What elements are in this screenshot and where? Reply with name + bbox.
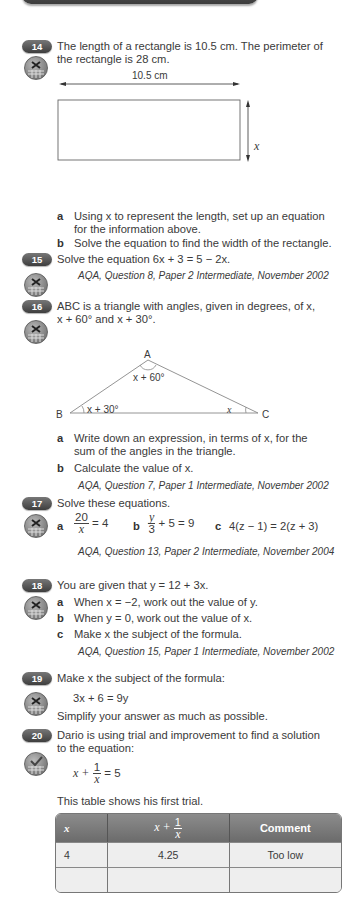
- q18-part-c: Make x the subject of the formula.: [74, 628, 242, 641]
- part-label: b: [57, 612, 70, 625]
- part-label: a: [57, 210, 70, 223]
- calculator-not-allowed-icon: [24, 692, 48, 716]
- fraction-denominator: 3: [148, 524, 155, 535]
- q16-text-line1: ABC is a triangle with angles, given in …: [57, 300, 315, 313]
- q18-part-a: When x = −2, work out the value of y.: [74, 596, 258, 609]
- table-cell-x[interactable]: [56, 867, 108, 892]
- q16-source: AQA, Question 7, Paper 1 Intermediate, N…: [78, 480, 329, 491]
- calculator-not-allowed-icon: [24, 320, 48, 344]
- column-header-comment: Comment: [230, 814, 341, 842]
- table-row: 4 4.25 Too low: [56, 842, 341, 867]
- angle-a-label: x + 60°: [133, 371, 165, 384]
- table-cell-comment[interactable]: [230, 867, 341, 892]
- q18-source: AQA, Question 15, Paper 1 Intermediate, …: [78, 646, 334, 657]
- angle-b-label: x + 30°: [87, 403, 119, 416]
- q14-part-b: Solve the equation to find the width of …: [74, 237, 332, 250]
- q17-text: Solve these equations.: [57, 497, 170, 510]
- equation-rest: = 4: [92, 517, 108, 529]
- q16-part-a-line1: Write down an expression, in terms of x,…: [74, 432, 308, 445]
- q17-part-c-equation: 4(z − 1) = 2(z + 3): [229, 520, 318, 533]
- question-number-18: 18: [22, 579, 52, 592]
- q16-part-b: Calculate the value of x.: [74, 462, 193, 475]
- fraction-denominator: x: [93, 774, 101, 785]
- equation-rest: + 5 = 9: [159, 517, 195, 529]
- part-label: a: [57, 432, 70, 445]
- equation-right: = 5: [104, 767, 120, 779]
- trial-table: x x + 1x Comment 4 4.25 Too low: [55, 813, 342, 893]
- q18-text: You are given that y = 12 + 3x.: [57, 579, 208, 592]
- column-header-x: x: [56, 814, 108, 842]
- part-label: b: [133, 520, 146, 533]
- table-cell-x: 4: [56, 842, 108, 867]
- question-number-14: 14: [22, 40, 52, 53]
- part-label: a: [57, 596, 70, 609]
- q16-text-line2: x + 60° and x + 30°.: [57, 313, 156, 326]
- rectangle-diagram: [55, 80, 255, 170]
- page-header-bar: [22, 0, 258, 4]
- q20-equation: x + 1x = 5: [73, 762, 121, 785]
- q14-part-a-line2: for the information above.: [74, 223, 201, 236]
- table-row: [56, 867, 341, 892]
- q18-part-b: When y = 0, work out the value of x.: [74, 612, 252, 625]
- question-number-15: 15: [22, 253, 52, 266]
- table-header-row: x x + 1x Comment: [56, 814, 341, 842]
- q14-part-a-line1: Using x to represent the length, set up …: [74, 210, 325, 223]
- q19-formula: 3x + 6 = 9y: [73, 692, 128, 705]
- q19-text: Make x the subject of the formula:: [57, 672, 225, 685]
- rectangle-height-label: x: [254, 140, 259, 153]
- q16-part-a-line2: sum of the angles in the triangle.: [74, 445, 236, 458]
- vertex-c-label: C: [262, 408, 269, 421]
- q20-text-line1: Dario is using trial and improvement to …: [57, 729, 320, 742]
- part-label: c: [215, 520, 228, 533]
- question-number-16: 16: [22, 300, 52, 313]
- angle-c-label: x: [227, 403, 231, 416]
- calculator-not-allowed-icon: [24, 514, 48, 538]
- question-number-19: 19: [22, 672, 52, 685]
- fraction-denominator: x: [74, 524, 89, 535]
- calculator-not-allowed-icon: [24, 596, 48, 620]
- calculator-allowed-icon: [24, 752, 48, 776]
- q17-part-b-equation: y3 + 5 = 9: [148, 512, 194, 535]
- part-label: b: [57, 237, 70, 250]
- vertex-a-label: A: [144, 348, 151, 361]
- column-header-x-plus-1-over-x: x + 1x: [108, 814, 230, 842]
- q15-source: AQA, Question 8, Paper 2 Intermediate, N…: [78, 270, 329, 281]
- equation-left: x +: [73, 766, 89, 780]
- part-label: c: [57, 628, 70, 641]
- q15-text: Solve the equation 6x + 3 = 5 − 2x.: [57, 253, 230, 266]
- table-cell-value: 4.25: [108, 842, 230, 867]
- q17-source: AQA, Question 13, Paper 2 Intermediate, …: [78, 546, 334, 557]
- table-cell-value[interactable]: [108, 867, 230, 892]
- q14-text-line2: the rectangle is 28 cm.: [57, 53, 170, 66]
- question-number-17: 17: [22, 497, 52, 510]
- vertex-b-label: B: [56, 408, 63, 421]
- part-label: a: [57, 520, 70, 533]
- q14-text-line1: The length of a rectangle is 10.5 cm. Th…: [57, 40, 323, 53]
- part-label: b: [57, 462, 70, 475]
- calculator-not-allowed-icon: [24, 56, 48, 80]
- table-cell-comment: Too low: [230, 842, 341, 867]
- q20-table-intro: This table shows his first trial.: [57, 795, 203, 808]
- q20-text-line2: to the equation:: [57, 742, 134, 755]
- q17-part-a-equation: 20x = 4: [74, 512, 108, 535]
- calculator-not-allowed-icon: [24, 273, 48, 297]
- question-number-20: 20: [22, 729, 52, 742]
- q19-note: Simplify your answer as much as possible…: [57, 710, 268, 723]
